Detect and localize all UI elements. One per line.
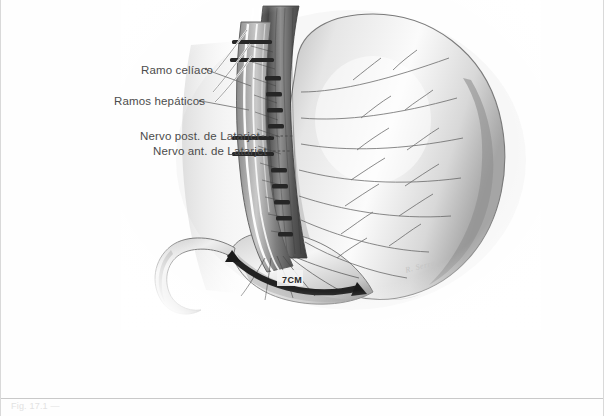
footer-rule	[1, 398, 603, 399]
stomach-vagus-drawing	[1, 0, 604, 330]
label-nervo-ant-latarjet: Nervo ant. de Latarjet	[153, 145, 267, 157]
legend-block: Vagotomia Seletiva proximal Superseletiv…	[1, 333, 604, 395]
label-nervo-post-latarjet: Nervo post. de Latarjet	[140, 130, 260, 142]
figure-caption: Fig. 17.1 —	[11, 401, 60, 414]
anatomical-illustration	[1, 0, 604, 330]
label-ramo-celiaco: Ramo celíaco	[141, 64, 213, 76]
label-seven-cm: 7CM	[282, 275, 302, 285]
figure-page: Ramo celíaco Ramos hepáticos Nervo post.…	[0, 0, 604, 416]
label-ramos-hepaticos: Ramos hepáticos	[114, 95, 205, 107]
